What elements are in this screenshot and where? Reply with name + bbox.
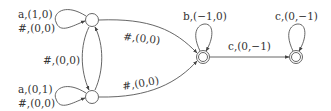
automaton-diagram: a,(1,0) #,(0,0) a,(0,1) #,(0,0) #,(0,0) … — [0, 0, 331, 111]
label-q0-loop-a: a,(1,0) — [18, 8, 53, 20]
label-q0-loop-hash: #,(0,0) — [18, 22, 55, 34]
state-qc-inner — [292, 53, 301, 62]
label-q1-loop-hash: #,(0,0) — [18, 97, 55, 109]
state-qb-inner — [199, 53, 208, 62]
edge-qc-loop — [289, 24, 305, 51]
edge-q0-loop — [55, 10, 86, 29]
label-qb-qc: c,(0,−1) — [228, 40, 271, 52]
label-q0-q1: #,(0,0) — [43, 54, 80, 66]
label-qc-loop: c,(0,−1) — [275, 10, 318, 22]
state-q0 — [86, 14, 99, 27]
state-q1 — [86, 91, 99, 104]
edge-q0-q1 — [82, 27, 89, 90]
edge-qb-loop — [196, 24, 212, 51]
label-q1-loop-a: a,(0,1) — [18, 83, 53, 95]
edge-q1-q0 — [95, 27, 102, 90]
label-qb-loop: b,(−1,0) — [183, 10, 227, 22]
edge-q1-loop — [55, 87, 86, 106]
label-q0-qb: #,(0,0) — [123, 30, 161, 46]
